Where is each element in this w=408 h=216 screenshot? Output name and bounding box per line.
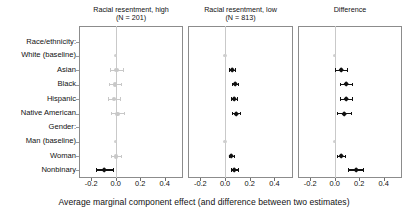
ci-cap-high — [121, 155, 122, 158]
panel-frame — [79, 26, 183, 178]
panel-subtitle: (N = 201) — [79, 14, 183, 22]
ci-cap-low — [337, 112, 338, 115]
row-label-black: Black — [57, 80, 76, 88]
y-tick-mark — [76, 170, 79, 171]
ci-cap-high — [238, 83, 239, 86]
ci-cap-high — [352, 83, 353, 86]
ci-cap-low — [337, 155, 338, 158]
x-tick-label: 0.4 — [379, 180, 389, 188]
ci-cap-high — [351, 112, 352, 115]
ci-cap-low — [340, 97, 341, 100]
row-label-man-baseline: Man (baseline) — [26, 137, 76, 145]
row-label-asian: Asian — [57, 66, 76, 74]
zero-reference-line — [335, 26, 336, 178]
panel-racial-resentment-high: Racial resentment, high(N = 201)-0.20.00… — [79, 26, 183, 178]
y-tick-mark — [76, 42, 79, 43]
row-label-column: Race/ethnicity:White (baseline)AsianBlac… — [0, 0, 79, 216]
x-tick-label: -0.2 — [194, 180, 207, 188]
panel-subtitle: (N = 813) — [188, 14, 293, 22]
ci-cap-low — [340, 83, 341, 86]
row-label-white-baseline: White (baseline) — [21, 51, 76, 59]
ci-cap-high — [347, 68, 348, 71]
x-tick-label: 0.2 — [354, 180, 364, 188]
ci-cap-high — [345, 155, 346, 158]
x-tick-label: -0.2 — [85, 180, 98, 188]
y-tick-mark — [76, 56, 79, 57]
panel-frame — [298, 26, 402, 178]
panel-racial-resentment-low: Racial resentment, low(N = 813)-0.20.00.… — [188, 26, 293, 178]
panel-frame — [188, 26, 293, 178]
y-tick-mark — [76, 99, 79, 100]
ci-cap-low — [110, 68, 111, 71]
ci-cap-high — [124, 112, 125, 115]
ci-cap-high — [235, 68, 236, 71]
ci-cap-high — [363, 168, 364, 171]
x-tick-label: 0.4 — [269, 180, 279, 188]
ci-cap-low — [335, 68, 336, 71]
row-label-nonbinary: Nonbinary — [41, 166, 76, 174]
x-tick-label: 0.2 — [135, 180, 145, 188]
x-tick-label: 0.0 — [111, 180, 121, 188]
x-tick-label: 0.4 — [160, 180, 170, 188]
estimate-point — [223, 54, 226, 57]
y-tick-mark — [76, 85, 79, 86]
panel-title: Difference — [298, 6, 402, 14]
ci-cap-low — [111, 112, 112, 115]
x-tick-label: -0.2 — [304, 180, 317, 188]
ci-cap-low — [96, 168, 97, 171]
row-label-gender: Gender: — [49, 123, 76, 131]
y-tick-mark — [76, 70, 79, 71]
figure-root: Race/ethnicity:White (baseline)AsianBlac… — [0, 0, 408, 216]
y-tick-mark — [76, 127, 79, 128]
row-label-woman: Woman — [50, 152, 76, 160]
zero-reference-line — [225, 26, 226, 178]
x-tick-label: 0.2 — [245, 180, 255, 188]
estimate-point — [114, 154, 118, 158]
panel-difference: Difference-0.20.00.20.4 — [298, 26, 402, 178]
row-label-native-american: Native American — [21, 109, 76, 117]
ci-cap-low — [108, 97, 109, 100]
y-tick-mark — [76, 156, 79, 157]
ci-cap-high — [123, 68, 124, 71]
ci-cap-high — [121, 83, 122, 86]
ci-cap-low — [109, 83, 110, 86]
ci-cap-high — [113, 168, 114, 171]
y-tick-mark — [76, 142, 79, 143]
estimate-point — [115, 112, 119, 116]
row-label-race-ethnicity: Race/ethnicity: — [26, 38, 76, 46]
ci-cap-high — [352, 97, 353, 100]
ci-cap-low — [111, 155, 112, 158]
ci-cap-high — [240, 112, 241, 115]
x-tick-label: 0.0 — [220, 180, 230, 188]
x-axis-title: Average marginal component effect (and d… — [0, 197, 408, 207]
ci-cap-high — [237, 97, 238, 100]
ci-cap-low — [348, 168, 349, 171]
ci-cap-high — [238, 168, 239, 171]
ci-cap-high — [120, 97, 121, 100]
x-tick-label: 0.0 — [330, 180, 340, 188]
y-tick-mark — [76, 114, 79, 115]
row-label-hispanic: Hispanic — [47, 95, 76, 103]
estimate-point — [114, 68, 118, 72]
